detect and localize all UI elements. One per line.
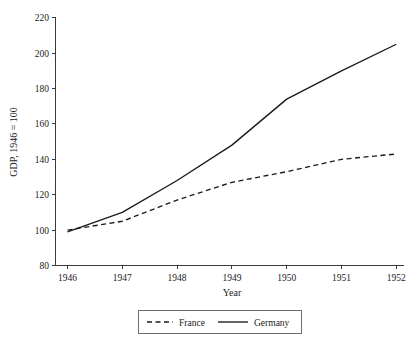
y-axis-ticks: 80 100 120 140 160 180 — [35, 13, 56, 271]
y-tick-label: 120 — [35, 190, 50, 200]
x-tick-label: 1950 — [277, 273, 296, 283]
x-axis-title: Year — [223, 287, 242, 298]
x-tick-1950: 1950 — [277, 266, 296, 284]
series-group — [68, 44, 397, 232]
y-axis-title: GDP, 1946 = 100 — [8, 107, 19, 177]
y-tick-140: 140 — [35, 155, 56, 165]
x-tick-label: 1951 — [332, 273, 351, 283]
y-tick-160: 160 — [35, 119, 56, 129]
y-tick-label: 180 — [35, 84, 50, 94]
x-tick-label: 1946 — [58, 273, 77, 283]
gdp-line-chart: 80 100 120 140 160 180 — [0, 0, 420, 341]
x-tick-label: 1949 — [222, 273, 241, 283]
x-tick-label: 1952 — [387, 273, 406, 283]
y-tick-120: 120 — [35, 190, 56, 200]
y-tick-220: 220 — [35, 13, 56, 23]
y-tick-label: 80 — [40, 261, 50, 271]
x-tick-1949: 1949 — [222, 266, 241, 284]
y-tick-180: 180 — [35, 84, 56, 94]
x-tick-1952: 1952 — [387, 266, 406, 284]
x-tick-label: 1948 — [168, 273, 187, 283]
x-tick-1946: 1946 — [58, 266, 77, 284]
y-tick-label: 160 — [35, 119, 50, 129]
legend-label-france: France — [179, 318, 205, 328]
y-tick-label: 140 — [35, 155, 50, 165]
legend-label-germany: Germany — [254, 318, 290, 328]
series-line-germany — [68, 44, 397, 232]
chart-canvas: 80 100 120 140 160 180 — [0, 0, 420, 341]
y-tick-100: 100 — [35, 226, 56, 236]
x-axis-ticks: 1946 1947 1948 1949 1950 1951 — [58, 266, 406, 284]
x-tick-1948: 1948 — [168, 266, 187, 284]
chart-legend: France Germany — [139, 311, 302, 334]
y-tick-200: 200 — [35, 49, 56, 59]
y-tick-label: 100 — [35, 226, 50, 236]
series-line-france — [68, 154, 397, 230]
y-tick-label: 220 — [35, 13, 50, 23]
y-tick-80: 80 — [40, 261, 56, 271]
x-tick-label: 1947 — [113, 273, 132, 283]
y-tick-label: 200 — [35, 49, 50, 59]
x-tick-1947: 1947 — [113, 266, 132, 284]
x-tick-1951: 1951 — [332, 266, 351, 284]
